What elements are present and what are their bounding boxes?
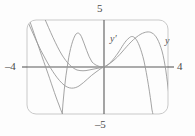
figure-container: 5 –5 –4 4 y′ y	[0, 0, 195, 136]
x-min-tick-label: –4	[5, 60, 15, 72]
y-min-tick-label: –5	[95, 118, 105, 130]
x-max-tick-label: 4	[177, 60, 182, 72]
plot-canvas	[0, 0, 195, 136]
y-max-tick-label: 5	[97, 2, 102, 14]
curve-label-y-prime: y′	[110, 33, 117, 44]
curve-label-y: y	[165, 35, 169, 46]
